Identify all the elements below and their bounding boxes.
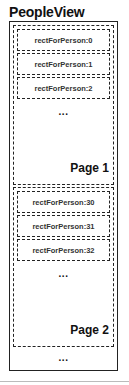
person-rect-2: rectForPerson:2 (17, 77, 110, 99)
person-rect-1: rectForPerson:1 (17, 53, 110, 75)
people-view-container: rectForPerson:0 rectForPerson:1 rectForP… (9, 21, 118, 371)
person-rect-30: rectForPerson:30 (17, 191, 110, 213)
page-1-ellipsis: ... (14, 106, 113, 117)
person-rect-32: rectForPerson:32 (17, 239, 110, 261)
person-rect-0: rectForPerson:0 (17, 29, 110, 51)
diagram-title: PeopleView (9, 4, 85, 20)
page-1-box: rectForPerson:0 rectForPerson:1 rectForP… (13, 25, 114, 185)
page-1-label: Page 1 (70, 161, 109, 175)
bottom-divider (0, 381, 129, 382)
page-2-label: Page 2 (70, 323, 109, 337)
trailing-ellipsis: ... (10, 352, 117, 363)
person-rect-31: rectForPerson:31 (17, 215, 110, 237)
page-2-ellipsis: ... (14, 268, 113, 279)
page-2-box: rectForPerson:30 rectForPerson:31 rectFo… (13, 187, 114, 347)
